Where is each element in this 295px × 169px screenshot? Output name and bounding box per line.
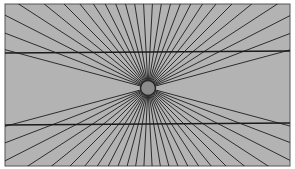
center-disc [141,81,156,96]
hering-illusion-figure [0,0,295,169]
